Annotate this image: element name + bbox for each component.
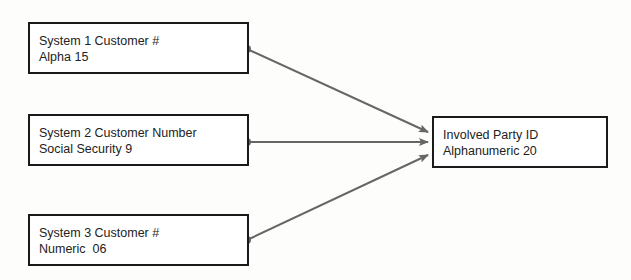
target-box-involved-party: Involved Party ID Alphanumeric 20 bbox=[432, 116, 608, 168]
connector-3 bbox=[243, 155, 428, 244]
source-3-name: System 3 Customer # bbox=[39, 225, 247, 241]
source-3-type: Numeric 06 bbox=[39, 241, 247, 257]
source-box-system-3: System 3 Customer # Numeric 06 bbox=[28, 214, 249, 266]
source-1-type: Alpha 15 bbox=[39, 49, 247, 65]
source-box-system-2: System 2 Customer Number Social Security… bbox=[28, 114, 249, 166]
source-2-name: System 2 Customer Number bbox=[39, 125, 247, 141]
source-1-name: System 1 Customer # bbox=[39, 33, 247, 49]
connector-1 bbox=[243, 45, 428, 132]
source-2-type: Social Security 9 bbox=[39, 141, 247, 157]
target-type: Alphanumeric 20 bbox=[443, 143, 606, 159]
target-name: Involved Party ID bbox=[443, 127, 606, 143]
connector-2 bbox=[243, 138, 428, 146]
source-box-system-1: System 1 Customer # Alpha 15 bbox=[28, 22, 249, 74]
